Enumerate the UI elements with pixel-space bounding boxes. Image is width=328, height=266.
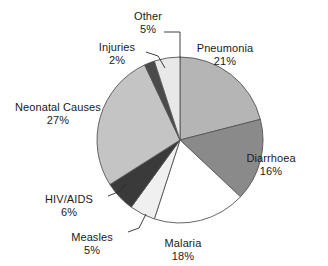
pie-label-value-diarrhoea: 16%: [211, 165, 328, 178]
pie-label-hiv-aids: HIV/AIDS6%: [9, 193, 129, 219]
leader-line-measles: [128, 214, 146, 232]
pie-label-value-injuries: 2%: [57, 54, 177, 67]
pie-label-other: Other5%: [88, 10, 208, 36]
pie-label-value-hiv-aids: 6%: [9, 206, 129, 219]
pie-chart: Pneumonia21%Diarrhoea16%Malaria18%Measle…: [0, 0, 328, 266]
pie-label-name-injuries: Injuries: [57, 41, 177, 54]
pie-chart-canvas: [0, 0, 328, 266]
pie-label-injuries: Injuries2%: [57, 41, 177, 67]
pie-label-value-neonatal-causes: 27%: [0, 114, 118, 127]
pie-label-pneumonia: Pneumonia21%: [165, 42, 285, 68]
pie-label-value-measles: 5%: [32, 244, 152, 257]
pie-label-value-pneumonia: 21%: [165, 55, 285, 68]
pie-label-name-pneumonia: Pneumonia: [165, 42, 285, 55]
pie-label-value-other: 5%: [88, 23, 208, 36]
pie-label-diarrhoea: Diarrhoea16%: [211, 152, 328, 178]
pie-label-name-other: Other: [88, 10, 208, 23]
pie-label-name-diarrhoea: Diarrhoea: [211, 152, 328, 165]
pie-label-measles: Measles5%: [32, 231, 152, 257]
pie-label-name-hiv-aids: HIV/AIDS: [9, 193, 129, 206]
pie-label-name-measles: Measles: [32, 231, 152, 244]
pie-label-name-neonatal-causes: Neonatal Causes: [0, 101, 118, 114]
pie-label-neonatal-causes: Neonatal Causes27%: [0, 101, 118, 127]
